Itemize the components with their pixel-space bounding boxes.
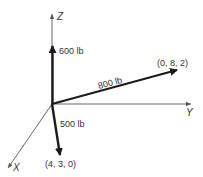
force-800-arrow [52, 70, 177, 104]
force-500-label: 500 lb [60, 119, 85, 129]
x-axis-label: X [12, 162, 20, 173]
force-500-arrow [52, 104, 60, 155]
force-600-label: 600 lb [59, 46, 84, 56]
y-axis-label: Y [186, 107, 194, 118]
point-4-3-0-label: (4, 3, 0) [45, 159, 76, 169]
z-axis-label: Z [56, 11, 64, 22]
point-0-8-2-label: (0, 8, 2) [157, 58, 188, 68]
force-diagram: Z Y X 600 lb 800 lb 500 lb (0, 8, 2) (4,… [0, 0, 203, 177]
